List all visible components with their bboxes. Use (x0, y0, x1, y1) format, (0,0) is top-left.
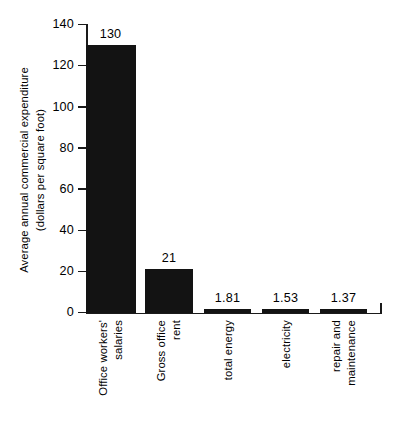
x-axis-category-label-line: repair and (329, 320, 344, 386)
bar[interactable] (86, 45, 136, 312)
y-axis-title-line-2: (dollars per square foot) (32, 67, 48, 273)
y-axis-tick (78, 24, 86, 26)
x-axis-category-label: repair andmaintenance (320, 320, 367, 424)
x-axis-category-label-line: Gross office (154, 320, 169, 381)
bar[interactable] (320, 309, 367, 312)
bar-value-label: 130 (74, 28, 148, 41)
x-axis-category-label: Gross officerent (145, 320, 193, 424)
bar-value-label: 1.37 (308, 292, 379, 305)
bar-value-label: 21 (133, 252, 205, 265)
bar[interactable] (204, 309, 251, 313)
x-axis-category-label: total energy (204, 320, 251, 424)
y-axis-tick-label: 80 (14, 142, 74, 155)
chart-page: Average annual commercial expenditure (d… (0, 0, 401, 428)
x-axis-line (86, 313, 382, 315)
y-axis-tick-label: 0 (14, 306, 74, 319)
x-axis-category-label: Office workers'salaries (86, 320, 136, 424)
x-axis-end-tick (380, 303, 382, 314)
x-axis-category-label-line: maintenance (344, 320, 359, 386)
x-axis-category-label-line: total energy (220, 320, 235, 380)
y-axis-tick-label: 140 (14, 18, 74, 31)
x-axis-category-label-line: salaries (111, 320, 126, 396)
y-axis-tick-label: 40 (14, 224, 74, 237)
y-axis-tick-label: 20 (14, 265, 74, 278)
bar[interactable] (145, 269, 193, 312)
x-axis-category-label-line: rent (169, 320, 184, 381)
y-axis-title-line-1: Average annual commercial expenditure (17, 67, 33, 273)
y-axis-tick-label: 60 (14, 183, 74, 196)
x-axis-category-label-line: electricity (278, 320, 293, 368)
x-axis-category-label-line: Office workers' (96, 320, 111, 396)
y-axis-tick-label: 100 (14, 101, 74, 114)
x-axis-category-label: electricity (262, 320, 309, 424)
y-axis-tick-label: 120 (14, 59, 74, 72)
bar[interactable] (262, 309, 309, 312)
